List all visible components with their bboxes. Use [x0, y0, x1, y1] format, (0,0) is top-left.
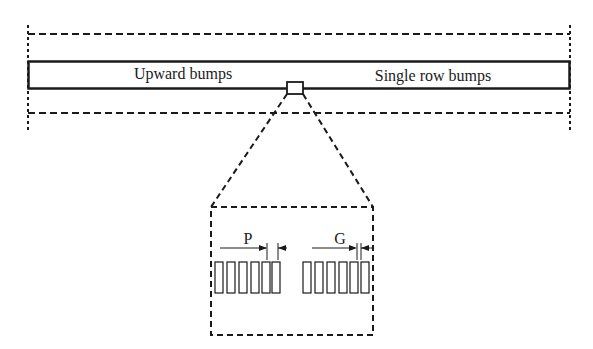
- bump: [227, 262, 235, 293]
- bump: [303, 262, 311, 293]
- label-pitch: P: [244, 230, 253, 247]
- bump: [239, 262, 247, 293]
- arrowhead-icon: [278, 245, 286, 251]
- bump: [272, 262, 280, 293]
- bump: [361, 262, 369, 293]
- magnify-right-line: [303, 94, 373, 207]
- bump: [350, 262, 358, 293]
- bump: [251, 262, 259, 293]
- arrowhead-icon: [259, 245, 267, 251]
- magnify-source-box: [287, 82, 303, 94]
- bump: [339, 262, 347, 293]
- bump: [262, 262, 270, 293]
- label-upward-bumps: Upward bumps: [134, 65, 232, 83]
- magnify-left-line: [211, 94, 287, 207]
- bump-group-right: [303, 262, 369, 293]
- bump-layout-diagram: Upward bumps Single row bumps P G: [0, 0, 593, 349]
- label-single-row-bumps: Single row bumps: [375, 67, 491, 85]
- label-gap: G: [334, 230, 346, 247]
- arrowhead-icon: [361, 245, 369, 251]
- bump: [215, 262, 223, 293]
- arrowhead-icon: [349, 245, 357, 251]
- bump: [327, 262, 335, 293]
- bump-group-left: [215, 262, 280, 293]
- pitch-dimension: [220, 243, 287, 260]
- bump: [315, 262, 323, 293]
